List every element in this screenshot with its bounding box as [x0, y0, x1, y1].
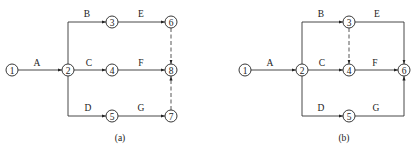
activity-label: G — [138, 103, 145, 113]
svg-text:3: 3 — [347, 18, 352, 28]
svg-text:6: 6 — [169, 18, 174, 28]
diagram-b: A B C D E F G 1 2 3 4 5 6 (b) — [239, 9, 410, 144]
network-diagrams: A B C D E F G 1 2 3 4 5 6 8 7 (a) A B C … — [0, 0, 412, 149]
activity-label: E — [138, 9, 144, 19]
caption-a: (a) — [115, 133, 126, 144]
node-b-4: 4 — [343, 64, 355, 76]
svg-text:4: 4 — [110, 66, 115, 76]
node-a-6: 6 — [165, 16, 177, 28]
svg-text:2: 2 — [66, 66, 71, 76]
activity-label: C — [319, 58, 325, 68]
node-a-4: 4 — [106, 64, 118, 76]
svg-text:3: 3 — [110, 18, 115, 28]
node-b-5: 5 — [343, 110, 355, 122]
node-b-2: 2 — [296, 64, 308, 76]
node-b-6: 6 — [398, 64, 410, 76]
activity-b-E-arrow — [355, 22, 404, 64]
svg-text:7: 7 — [169, 112, 174, 122]
activity-label: C — [86, 58, 92, 68]
node-a-1: 1 — [6, 64, 18, 76]
svg-text:5: 5 — [110, 112, 115, 122]
activity-label: G — [373, 103, 380, 113]
activity-label: B — [318, 9, 324, 19]
activity-label: F — [372, 58, 377, 68]
activity-label: D — [318, 103, 325, 113]
activity-b-G-arrow — [355, 76, 404, 116]
activity-label: D — [85, 103, 92, 113]
svg-text:1: 1 — [10, 66, 15, 76]
activity-label: E — [374, 9, 380, 19]
activity-label: A — [267, 58, 274, 68]
node-a-3: 3 — [106, 16, 118, 28]
node-a-8: 8 — [165, 64, 177, 76]
svg-text:1: 1 — [243, 66, 248, 76]
diagram-a: A B C D E F G 1 2 3 4 5 6 8 7 (a) — [6, 9, 177, 144]
activity-label: A — [34, 58, 41, 68]
node-b-1: 1 — [239, 64, 251, 76]
activity-label: B — [84, 9, 90, 19]
node-a-2: 2 — [62, 64, 74, 76]
node-a-7: 7 — [165, 110, 177, 122]
node-b-3: 3 — [343, 16, 355, 28]
svg-text:8: 8 — [169, 66, 174, 76]
activity-label: F — [138, 58, 143, 68]
node-a-5: 5 — [106, 110, 118, 122]
svg-text:5: 5 — [347, 112, 352, 122]
svg-text:4: 4 — [347, 66, 352, 76]
caption-b: (b) — [338, 133, 349, 144]
svg-text:2: 2 — [300, 66, 305, 76]
svg-text:6: 6 — [402, 66, 407, 76]
